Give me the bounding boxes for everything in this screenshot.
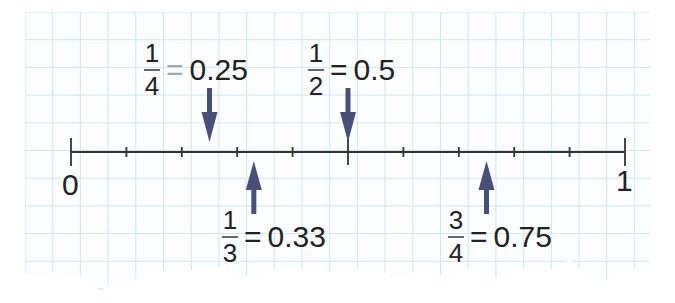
decimal-value: 0.75 xyxy=(494,220,552,254)
denominator: 4 xyxy=(145,73,159,99)
numerator: 1 xyxy=(223,207,237,233)
marker-label-three-quarters: 34 = 0.75 xyxy=(448,207,552,266)
equals-sign: = xyxy=(330,53,348,87)
marker-label-one-quarter: 14 = 0.25 xyxy=(144,40,248,99)
label-zero: 0 xyxy=(62,168,79,202)
equals-sign: = xyxy=(244,220,262,254)
label-one: 1 xyxy=(616,164,633,198)
marker-label-one-third: 13 = 0.33 xyxy=(222,207,326,266)
marker-label-one-half: 12 = 0.5 xyxy=(308,40,395,99)
numerator: 1 xyxy=(309,40,323,66)
denominator: 2 xyxy=(309,73,323,99)
number-line-diagram: 0 1 14 = 0.25 12 = 0.5 13 = 0.33 34 = 0.… xyxy=(0,0,675,303)
denominator: 3 xyxy=(223,240,237,266)
decimal-value: 0.25 xyxy=(190,53,248,87)
numerator: 1 xyxy=(145,40,159,66)
equals-sign: = xyxy=(166,53,184,87)
equals-sign: = xyxy=(470,220,488,254)
decimal-value: 0.33 xyxy=(268,220,326,254)
numerator: 3 xyxy=(449,207,463,233)
decimal-value: 0.5 xyxy=(354,53,396,87)
denominator: 4 xyxy=(449,240,463,266)
